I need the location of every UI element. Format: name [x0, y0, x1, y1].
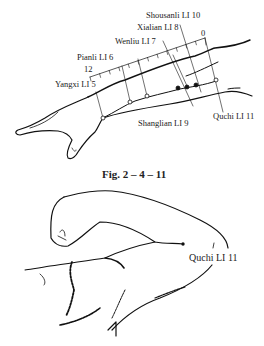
label-quchi-top: Quchi LI 11: [213, 112, 254, 121]
label-quchi-bottom: Quchi LI 11: [189, 253, 238, 263]
label-shousanli: Shousanli LI 10: [146, 11, 200, 20]
scale-start-label: 12: [84, 65, 93, 74]
figure-caption: Fig. 2 – 4 – 11: [102, 169, 166, 180]
acupoint-figure: Shousanli LI 10 Xialian LI 8 0 Wenliu LI…: [0, 0, 264, 346]
label-shanglian: Shanglian LI 9: [138, 119, 189, 128]
scale-end-label: 0: [201, 29, 205, 38]
label-pianli: Pianli LI 6: [77, 53, 113, 62]
label-wenliu: Wenliu LI 7: [115, 37, 156, 46]
label-xialian: Xialian LI 8: [137, 23, 179, 32]
label-yangxi: Yangxi LI 5: [55, 80, 96, 89]
